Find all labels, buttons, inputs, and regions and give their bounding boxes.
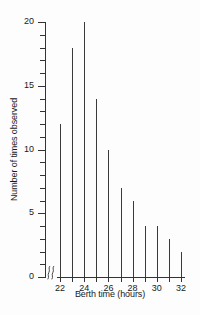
x-axis-tick [60,277,61,282]
chart-bar [133,201,134,278]
chart-bar [121,188,122,277]
chart-bar [72,48,73,278]
x-axis-tick [72,277,73,282]
y-axis-tick [38,277,45,278]
x-axis-tick [96,277,97,282]
x-axis-tick [84,277,85,282]
x-axis-tick [108,277,109,282]
chart-bar [108,150,109,278]
chart-bar [60,124,61,277]
chart-bar [145,226,146,277]
x-axis-tick [121,277,122,282]
chart-bar [157,226,158,277]
chart-bar [84,22,85,277]
chart-bar [181,252,182,278]
x-axis-tick-label: 30 [147,284,167,293]
x-axis-tick-label: 22 [50,284,70,293]
x-axis-tick-label: 28 [123,284,143,293]
x-axis-tick [181,277,182,282]
x-axis-tick-label: 26 [98,284,118,293]
x-axis-tick [169,277,170,282]
chart-bar [96,99,97,278]
x-axis-tick-label: 32 [171,284,191,293]
x-axis-tick-label: 24 [74,284,94,293]
chart-bar [169,239,170,277]
x-axis-tick [133,277,134,282]
data-series-spikes [0,22,200,277]
chart-figure: Number of times observed Berth time (hou… [0,0,200,315]
x-axis-tick [157,277,158,282]
x-axis-tick [145,277,146,282]
